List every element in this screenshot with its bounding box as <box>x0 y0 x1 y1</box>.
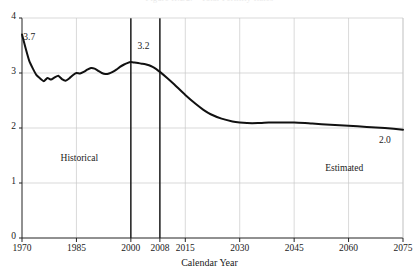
peak-value-label: 3.2 <box>134 41 153 51</box>
data-series-lines <box>22 35 403 130</box>
start-value-label: 3.7 <box>20 32 39 42</box>
y-tick-label-1: 1 <box>0 176 16 186</box>
x-axis-title: Calendar Year <box>0 257 419 268</box>
plot-area <box>0 0 419 279</box>
y-tick-label-2: 2 <box>0 121 16 131</box>
series-line-0 <box>22 35 403 130</box>
x-tick-label-2075: 2075 <box>383 243 419 253</box>
end-value-label: 2.0 <box>375 135 394 145</box>
x-tick-label-1970: 1970 <box>2 243 42 253</box>
historical-region-label: Historical <box>43 153 117 163</box>
x-tick-label-2015: 2015 <box>165 243 205 253</box>
x-tick-label-2045: 2045 <box>274 243 314 253</box>
x-tick-label-2060: 2060 <box>329 243 369 253</box>
x-tick-label-1985: 1985 <box>56 243 96 253</box>
y-tick-label-4: 4 <box>0 11 16 21</box>
y-tick-label-0: 0 <box>0 231 16 241</box>
fertility-rate-chart: Figure II.D2.—Total Fertility Rates 0123… <box>0 0 419 279</box>
gridlines <box>22 18 403 238</box>
estimated-region-label: Estimated <box>307 163 381 173</box>
x-tick-label-2030: 2030 <box>220 243 260 253</box>
y-tick-label-3: 3 <box>0 66 16 76</box>
